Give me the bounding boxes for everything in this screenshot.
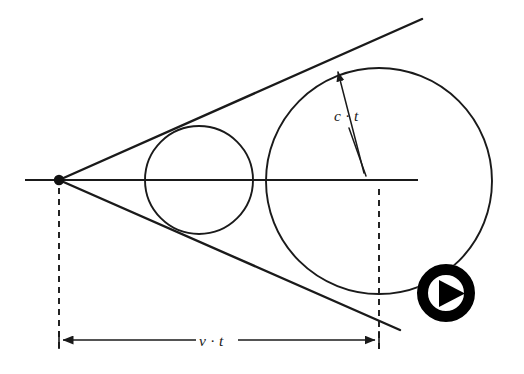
lower-tangent-line [59, 180, 400, 330]
ct-label: c · t [334, 107, 359, 124]
vt-label: v · t [199, 332, 224, 349]
play-icon[interactable] [417, 264, 475, 322]
figure-canvas: c · t v · t [0, 0, 524, 374]
apex-vertex-dot [54, 175, 64, 185]
upper-tangent-line [59, 19, 422, 180]
mach-cone-diagram: c · t v · t [0, 0, 524, 374]
ct-leader-stub [349, 128, 366, 176]
